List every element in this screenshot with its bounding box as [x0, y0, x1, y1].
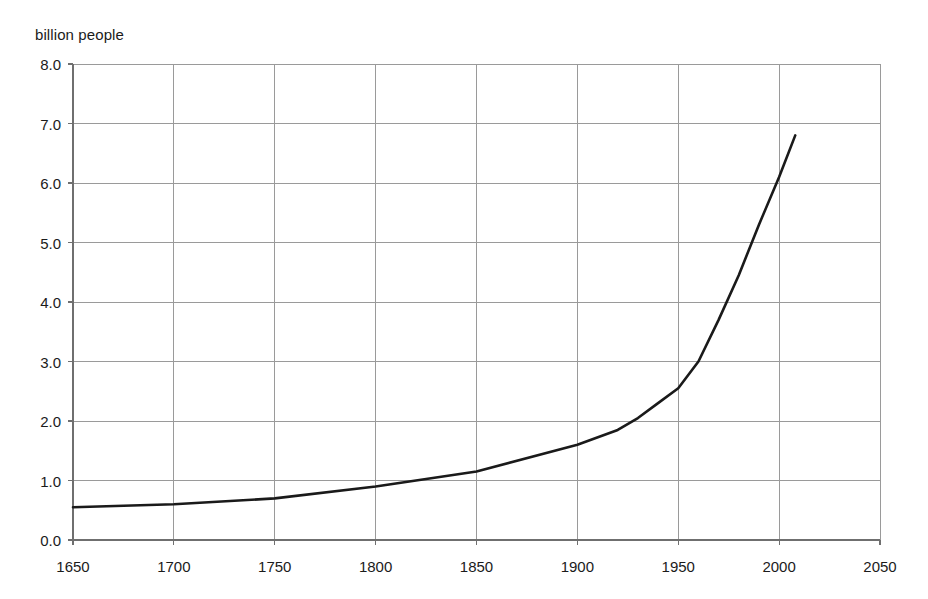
- y-tick-label: 6.0: [15, 175, 61, 192]
- y-tick-label: 1.0: [15, 472, 61, 489]
- y-tick-label: 0.0: [15, 532, 61, 549]
- x-tick-label: 2000: [749, 558, 809, 575]
- x-tick-label: 1750: [245, 558, 305, 575]
- x-tick-label: 1900: [547, 558, 607, 575]
- data-series-layer: [73, 135, 795, 507]
- series-line-world-population: [73, 135, 795, 507]
- x-tick-label: 1950: [648, 558, 708, 575]
- y-tick-label: 4.0: [15, 294, 61, 311]
- x-tick-label: 2050: [850, 558, 910, 575]
- y-tick-label: 5.0: [15, 234, 61, 251]
- x-tick-label: 1700: [144, 558, 204, 575]
- y-tick-label: 7.0: [15, 115, 61, 132]
- x-tick-label: 1800: [346, 558, 406, 575]
- x-tick-label: 1650: [43, 558, 103, 575]
- x-tick-label: 1850: [447, 558, 507, 575]
- population-chart: billion people 0.01.02.03.04.05.06.07.08…: [0, 0, 928, 599]
- y-tick-label: 3.0: [15, 353, 61, 370]
- y-tick-label: 2.0: [15, 413, 61, 430]
- plot-area: [0, 0, 928, 599]
- y-tick-label: 8.0: [15, 56, 61, 73]
